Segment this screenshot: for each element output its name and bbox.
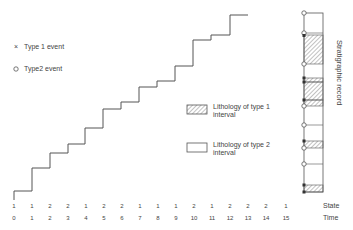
time-value: 8 [156, 215, 160, 221]
state-value: 2 [66, 203, 70, 209]
time-value: 9 [174, 215, 178, 221]
cross-icon: × [14, 43, 18, 50]
state-value: 1 [210, 203, 214, 209]
legend-type2-lithology: Lithology of type 2 interval [187, 141, 270, 156]
state-value: 1 [284, 203, 288, 209]
time-value: 6 [120, 215, 124, 221]
stratigraphic-record-label: Stratigraphic record [335, 40, 344, 105]
legend-type2-lithology-line1: Lithology of type 2 [213, 141, 270, 149]
state-value: 2 [120, 203, 124, 209]
state-value: 1 [174, 203, 178, 209]
state-value: 2 [102, 203, 106, 209]
state-value: 2 [246, 203, 250, 209]
blank-swatch-icon [187, 143, 207, 152]
state-row: 1 1 2 2 1 2 2 1 1 1 2 1 2 2 2 1 State [12, 202, 339, 209]
legend-type2-event-label: Type2 event [24, 65, 62, 73]
time-value: 13 [245, 215, 252, 221]
state-value: 1 [84, 203, 88, 209]
hatched-swatch-icon [187, 105, 207, 114]
state-value: 1 [12, 203, 16, 209]
time-value: 4 [84, 215, 88, 221]
circle-icon [14, 67, 18, 71]
time-value: 14 [263, 215, 270, 221]
time-axis-label: Time [323, 214, 338, 221]
state-value: 1 [138, 203, 142, 209]
time-value: 3 [66, 215, 70, 221]
time-value: 10 [191, 215, 198, 221]
state-value: 2 [228, 203, 232, 209]
legend-type2-lithology-line2: interval [213, 149, 236, 156]
time-value: 12 [227, 215, 234, 221]
state-value: 2 [192, 203, 196, 209]
time-value: 7 [138, 215, 142, 221]
state-value: 2 [48, 203, 52, 209]
time-row: 0 1 2 3 4 5 6 7 8 9 10 11 12 13 14 15 Ti… [12, 214, 338, 221]
state-value: 1 [30, 203, 34, 209]
legend-type2-event: Type2 event [14, 65, 62, 73]
legend-type1-lithology-line1: Lithology of type 1 [213, 103, 270, 111]
time-value: 1 [30, 215, 34, 221]
time-value: 15 [283, 215, 290, 221]
stratigraphic-column: Stratigraphic record [302, 11, 344, 194]
state-value: 2 [264, 203, 268, 209]
time-value: 2 [48, 215, 52, 221]
time-value: 5 [102, 215, 106, 221]
legend-type1-lithology-line2: interval [213, 111, 236, 118]
time-value: 11 [209, 215, 216, 221]
time-value: 0 [12, 215, 16, 221]
stratigraphic-diagram: × Type 1 event Type2 event Lithology of … [0, 0, 353, 230]
state-axis-label: State [323, 202, 339, 209]
legend-type1-lithology: Lithology of type 1 interval [187, 103, 270, 118]
state-value: 1 [156, 203, 160, 209]
legend-type1-event: × Type 1 event [14, 43, 64, 51]
legend-type1-event-label: Type 1 event [24, 43, 64, 51]
